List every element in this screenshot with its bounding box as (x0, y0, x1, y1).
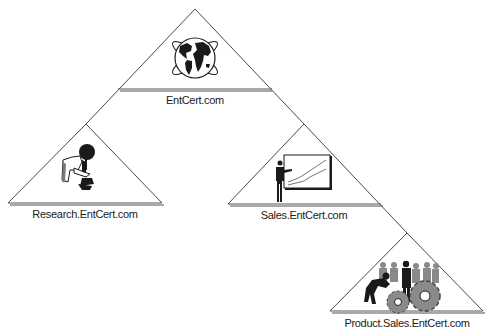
label-entcert: EntCert.com (166, 94, 224, 106)
scientist-microscope-icon (62, 144, 95, 190)
node-sales: Sales.EntCert.com (228, 124, 407, 233)
globe-icon (169, 37, 221, 79)
label-sales: Sales.EntCert.com (261, 209, 348, 221)
domain-tree-diagram: EntCert.com Research.EntCert.com (0, 0, 493, 333)
node-entcert-root: EntCert.com (86, 9, 304, 124)
workers-gears-icon (364, 261, 440, 313)
small-gear (387, 291, 409, 313)
node-product: Product.Sales.EntCert.com (330, 233, 485, 329)
presenter-chart-icon (276, 155, 332, 202)
node-research: Research.EntCert.com (8, 124, 164, 220)
label-product: Product.Sales.EntCert.com (344, 317, 469, 329)
label-research: Research.EntCert.com (32, 208, 137, 220)
large-gear (410, 281, 440, 311)
